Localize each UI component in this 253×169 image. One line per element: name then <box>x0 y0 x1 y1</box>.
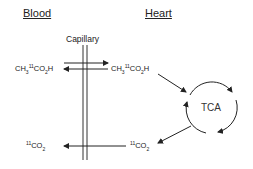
blood-acetate-label: CH311CO2H <box>15 64 53 73</box>
tca-label: TCA <box>201 102 221 113</box>
blood-co2-label: 11CO2 <box>26 141 45 150</box>
blood-header: Blood <box>23 7 51 19</box>
heart-acetate-label: CH311CO2H <box>111 64 149 73</box>
tca-to-co2-arrow <box>158 126 191 143</box>
heart-co2-label: 11CO2 <box>130 141 149 150</box>
acetate-to-tca-arrow <box>158 74 186 92</box>
capillary-wall <box>83 45 87 160</box>
capillary-label: Capillary <box>66 34 99 44</box>
heart-header: Heart <box>145 7 172 19</box>
